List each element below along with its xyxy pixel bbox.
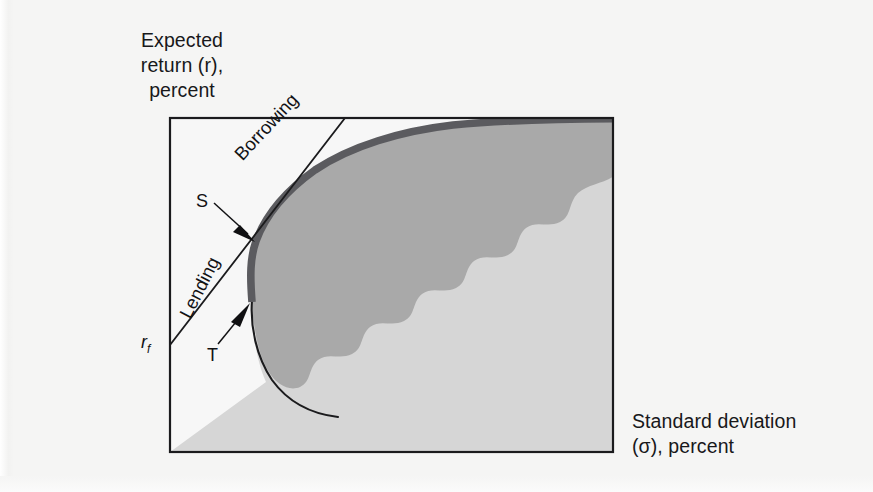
tangency-point-label: S — [196, 191, 208, 212]
y-axis-label: Expected return (r), percent — [112, 28, 252, 103]
figure-page: Expected return (r), percent Standard de… — [0, 0, 873, 492]
risk-free-rate-subscript: f — [147, 342, 150, 356]
minimum-variance-label: T — [207, 345, 218, 366]
x-axis-label: Standard deviation (σ), percent — [632, 409, 872, 459]
risk-free-rate-label: rf — [141, 332, 150, 356]
